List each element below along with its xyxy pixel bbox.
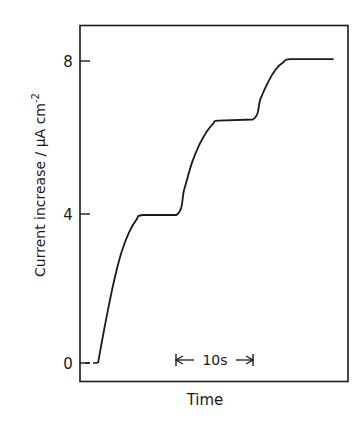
- plot-frame: [80, 26, 348, 382]
- chart-figure: 0 4 8 Current increase / μA cm-2 10s Tim…: [0, 0, 362, 426]
- y-axis-label-main: Current increase / μA cm: [32, 103, 48, 277]
- y-tick-label-4: 4: [63, 206, 73, 224]
- y-axis-label: Current increase / μA cm-2: [30, 93, 48, 277]
- y-tick-label-0: 0: [63, 355, 73, 373]
- y-axis-label-superscript: -2: [30, 93, 41, 103]
- chart-canvas: 0 4 8 Current increase / μA cm-2 10s Tim…: [0, 0, 362, 426]
- time-scale-bar: 10s: [176, 352, 253, 368]
- current-curve: [98, 59, 334, 363]
- y-tick-label-8: 8: [63, 53, 73, 71]
- x-axis-label: Time: [186, 391, 224, 409]
- scale-bar-label: 10s: [202, 352, 227, 368]
